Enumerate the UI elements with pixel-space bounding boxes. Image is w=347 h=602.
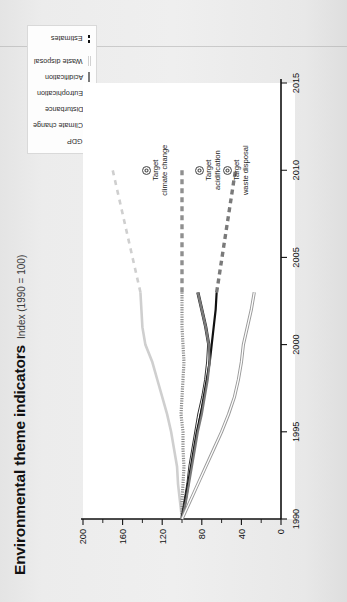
y-tick-label: 40 bbox=[236, 529, 246, 539]
y-tick-label: 120 bbox=[157, 529, 167, 544]
target-marker-icon bbox=[142, 166, 151, 175]
target-marker-icon bbox=[223, 166, 232, 175]
series-waste-disposal-inner bbox=[182, 292, 254, 519]
x-tick-label: 1995 bbox=[291, 422, 301, 442]
y-tick-label: 80 bbox=[197, 529, 207, 539]
x-tick-label: 2010 bbox=[291, 160, 301, 180]
annotation-target-climate-change: Target climate change bbox=[142, 136, 169, 204]
y-tick-label: 160 bbox=[118, 529, 128, 544]
annotation-target-acidification: Target acidification bbox=[195, 136, 222, 204]
x-tick-label: 2005 bbox=[291, 247, 301, 267]
annotation-line-1: Target bbox=[152, 136, 161, 204]
series-gdp bbox=[140, 292, 182, 519]
series-acidification bbox=[182, 292, 210, 519]
y-tick-label: 200 bbox=[78, 529, 88, 544]
series-climate-change bbox=[181, 292, 184, 519]
annotation-line-1: Target bbox=[233, 136, 242, 204]
series-gdp-estimate bbox=[112, 170, 140, 292]
y-tick-label: 0 bbox=[276, 529, 286, 534]
series-waste-disposal-outline bbox=[182, 292, 254, 519]
chart-subtitle: Index (1990 = 100) bbox=[16, 255, 27, 339]
page-title: Environmental theme indicators bbox=[11, 345, 29, 575]
annotation-line-2: acidification bbox=[213, 136, 222, 204]
annotation-line-2: waste disposal bbox=[241, 136, 250, 204]
page-background: Environmental theme indicators Index (19… bbox=[0, 0, 347, 602]
annotation-target-waste-disposal: Target waste disposal bbox=[223, 136, 250, 204]
figure-rotation-wrapper: Environmental theme indicators Index (19… bbox=[9, 21, 339, 581]
x-tick-label: 2000 bbox=[291, 334, 301, 354]
plot-area: 19901995200020052010201504080120160200 bbox=[69, 21, 339, 581]
x-tick-label: 1990 bbox=[291, 509, 301, 529]
x-tick-label: 2015 bbox=[291, 73, 301, 93]
annotation-line-2: climate change bbox=[160, 136, 169, 204]
chart-title-row: Environmental theme indicators Index (19… bbox=[11, 255, 29, 575]
chart-figure: Environmental theme indicators Index (19… bbox=[9, 21, 339, 581]
chart-svg: 19901995200020052010201504080120160200 bbox=[69, 21, 339, 581]
target-marker-icon bbox=[195, 166, 204, 175]
